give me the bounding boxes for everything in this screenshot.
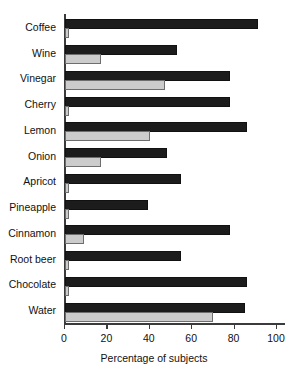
- bar-light-cherry: [65, 106, 69, 116]
- bar-group: [65, 122, 286, 139]
- bar-light-pineapple: [65, 209, 69, 219]
- category-label-onion: Onion: [0, 151, 56, 162]
- bar-group: [65, 97, 286, 114]
- x-tick-label-20: 20: [101, 332, 113, 344]
- x-tick-label-80: 80: [228, 332, 240, 344]
- bar-group: [65, 277, 286, 294]
- category-label-pineapple: Pineapple: [0, 202, 56, 213]
- bar-dark-apricot: [65, 174, 181, 184]
- x-tick-label-60: 60: [185, 332, 197, 344]
- bar-dark-coffee: [65, 19, 258, 29]
- bar-group: [65, 251, 286, 268]
- category-label-lemon: Lemon: [0, 125, 56, 136]
- bar-light-apricot: [65, 183, 69, 193]
- category-label-apricot: Apricot: [0, 176, 56, 187]
- bar-dark-root-beer: [65, 251, 181, 261]
- bar-chart: CoffeeWineVinegarCherryLemonOnionApricot…: [0, 0, 308, 382]
- x-tick-40: [149, 324, 150, 329]
- bar-group: [65, 200, 286, 217]
- category-label-wine: Wine: [0, 48, 56, 59]
- bar-light-chocolate: [65, 286, 69, 296]
- category-label-cherry: Cherry: [0, 99, 56, 110]
- bar-light-wine: [65, 54, 101, 64]
- category-label-chocolate: Chocolate: [0, 279, 56, 290]
- bar-group: [65, 45, 286, 62]
- category-label-coffee: Coffee: [0, 22, 56, 33]
- x-axis-title: Percentage of subjects: [0, 352, 308, 364]
- category-label-root-beer: Root beer: [0, 254, 56, 265]
- bar-light-onion: [65, 157, 101, 167]
- bar-light-cinnamon: [65, 234, 84, 244]
- category-label-water: Water: [0, 305, 56, 316]
- category-label-cinnamon: Cinnamon: [0, 228, 56, 239]
- x-tick-20: [106, 324, 107, 329]
- x-tick-60: [191, 324, 192, 329]
- bar-group: [65, 148, 286, 165]
- bar-group: [65, 174, 286, 191]
- bar-dark-chocolate: [65, 277, 247, 287]
- x-tick-label-40: 40: [143, 332, 155, 344]
- bar-light-coffee: [65, 28, 69, 38]
- x-tick-80: [234, 324, 235, 329]
- bar-dark-pineapple: [65, 200, 148, 210]
- x-tick-label-100: 100: [267, 332, 285, 344]
- bar-group: [65, 303, 286, 320]
- bar-dark-cinnamon: [65, 225, 230, 235]
- x-tick-100: [276, 324, 277, 329]
- plot-area: 020406080100: [64, 14, 285, 323]
- bar-light-lemon: [65, 131, 150, 141]
- bar-light-root-beer: [65, 260, 69, 270]
- bar-light-vinegar: [65, 80, 165, 90]
- bar-group: [65, 19, 286, 36]
- bar-light-water: [65, 312, 213, 322]
- bar-group: [65, 71, 286, 88]
- bar-dark-cherry: [65, 97, 230, 107]
- category-axis-labels: CoffeeWineVinegarCherryLemonOnionApricot…: [0, 14, 60, 323]
- x-tick-label-0: 0: [61, 332, 67, 344]
- x-axis-line: [64, 323, 285, 325]
- bar-group: [65, 225, 286, 242]
- category-label-vinegar: Vinegar: [0, 73, 56, 84]
- x-tick-0: [64, 324, 65, 329]
